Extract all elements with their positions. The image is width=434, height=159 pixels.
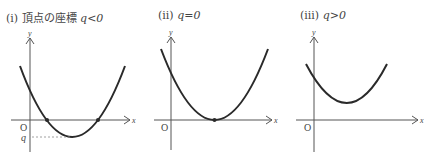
parabola-diagrams: y x O q y x O y x O <box>0 0 434 159</box>
y-label: y <box>311 28 316 37</box>
y-label: y <box>168 28 173 37</box>
origin-label: O <box>161 122 168 133</box>
x-label: x <box>131 116 136 125</box>
vertex-point <box>213 118 217 122</box>
panel-i-graph: y x O q <box>11 29 136 152</box>
parabola-curve <box>20 66 125 137</box>
y-label: y <box>27 29 32 38</box>
x-label: x <box>419 116 424 125</box>
root-point <box>45 118 49 122</box>
parabola-curve <box>161 49 268 120</box>
origin-label: O <box>304 122 311 133</box>
parabola-curve <box>306 64 387 103</box>
root-point <box>96 118 100 122</box>
vertex-y-label: q <box>21 132 26 143</box>
panel-iii-graph: y x O <box>296 28 424 152</box>
x-label: x <box>273 116 278 125</box>
panel-ii-graph: y x O <box>154 28 278 150</box>
